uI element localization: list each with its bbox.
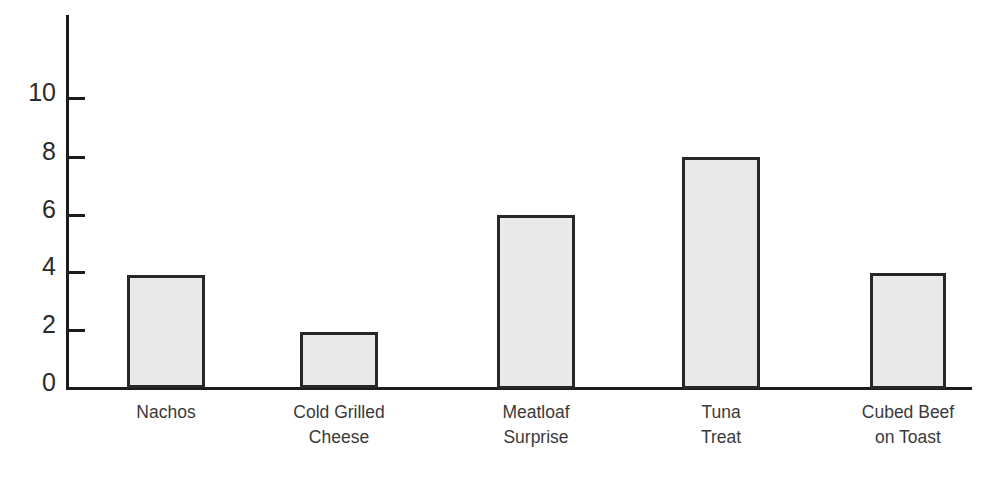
x-category-label-line2: Treat (641, 425, 801, 450)
x-category-label-line1: Tuna (701, 402, 740, 422)
y-tick-label-10: 10 (12, 80, 56, 105)
x-category-label-line1: Nachos (136, 402, 195, 422)
x-category-label-line2: on Toast (828, 425, 988, 450)
bar-chart: 0 2 4 6 8 10 Nachos Cold Grilled Cheese … (0, 0, 989, 489)
y-tick-mark-0 (66, 387, 85, 390)
y-tick-label-6: 6 (12, 197, 56, 222)
x-category-label-line1: Cold Grilled (293, 402, 384, 422)
x-category-label-nachos: Nachos (86, 400, 246, 425)
bar-nachos (127, 275, 205, 388)
y-tick-label-0: 0 (12, 370, 56, 395)
y-tick-mark-10 (66, 97, 85, 100)
x-category-label-line1: Meatloaf (502, 402, 569, 422)
y-tick-label-8: 8 (12, 139, 56, 164)
y-tick-mark-8 (66, 156, 85, 159)
x-category-label-line1: Cubed Beef (862, 402, 954, 422)
y-tick-mark-6 (66, 214, 85, 217)
x-category-label-cold-grilled-cheese: Cold Grilled Cheese (259, 400, 419, 451)
x-category-label-line2: Cheese (259, 425, 419, 450)
y-tick-mark-4 (66, 271, 85, 274)
y-tick-mark-2 (66, 329, 85, 332)
x-category-label-meatloaf-surprise: Meatloaf Surprise (456, 400, 616, 451)
bar-cubed-beef-on-toast (870, 273, 946, 389)
bar-meatloaf-surprise (497, 215, 575, 389)
y-tick-label-2: 2 (12, 312, 56, 337)
x-category-label-tuna-treat: Tuna Treat (641, 400, 801, 451)
y-axis-line (66, 15, 69, 390)
x-category-label-cubed-beef-on-toast: Cubed Beef on Toast (828, 400, 988, 451)
bar-cold-grilled-cheese (300, 332, 378, 389)
x-category-label-line2: Surprise (456, 425, 616, 450)
y-tick-label-4: 4 (12, 254, 56, 279)
bar-tuna-treat (682, 157, 760, 389)
